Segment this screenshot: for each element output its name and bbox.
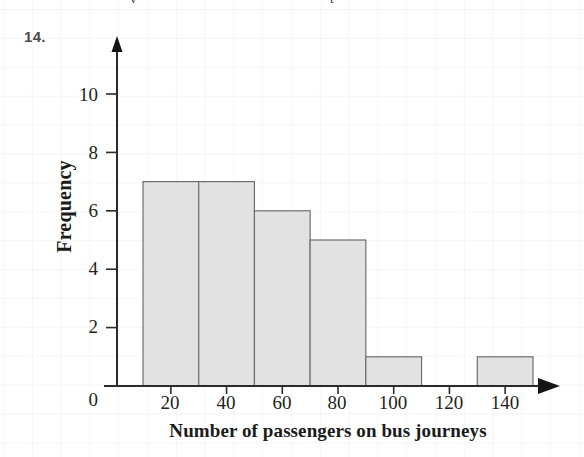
histogram-chart: 0 2 4 6 8 10 20 40 60 80 100 120 140 Fre… — [0, 0, 584, 457]
x-tick-label-20: 20 — [148, 392, 192, 414]
y-tick-label-10: 10 — [56, 84, 98, 106]
y-axis-title: Frequency — [53, 137, 76, 277]
histogram-bar — [366, 357, 422, 386]
x-tick-label-40: 40 — [204, 392, 248, 414]
histogram-bar — [199, 182, 255, 386]
x-tick-label-140: 140 — [483, 392, 527, 414]
bars-group — [143, 182, 533, 386]
x-tick-label-60: 60 — [260, 392, 304, 414]
histogram-bar — [477, 357, 533, 386]
worksheet-page: y t 14. 0 2 4 6 8 10 20 — [0, 0, 584, 457]
histogram-bar — [143, 182, 199, 386]
x-axis-title: Number of passengers on bus journeys — [118, 420, 538, 442]
histogram-bar — [310, 240, 366, 386]
x-tick-label-100: 100 — [371, 392, 415, 414]
y-tick-label-0: 0 — [64, 389, 98, 411]
x-tick-label-120: 120 — [427, 392, 471, 414]
histogram-bar — [254, 211, 310, 386]
x-tick-label-80: 80 — [315, 392, 359, 414]
y-tick-label-2: 2 — [64, 316, 98, 338]
